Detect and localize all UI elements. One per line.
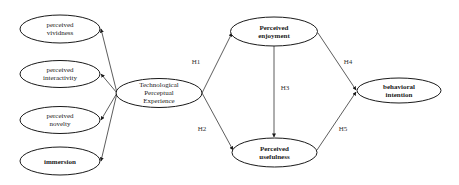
- node-immersion: immersion: [20, 147, 100, 175]
- node-label: perceived: [46, 66, 74, 74]
- node-label: Technological: [139, 81, 179, 89]
- node-label: interactivity: [43, 74, 77, 82]
- edge-label-h2: H2: [198, 125, 207, 133]
- edge-label-h1: H1: [192, 58, 201, 66]
- edge-tpe-novelty: [101, 93, 117, 120]
- edge-label-h5: H5: [339, 125, 348, 133]
- node-label: perceived: [46, 21, 74, 29]
- node-label: Experience: [143, 97, 174, 105]
- node-perceived-enjoyment: Perceived enjoyment: [231, 17, 318, 46]
- node-behavioral-intention: behavioral intention: [357, 78, 441, 103]
- edge-label-h4: H4: [344, 58, 353, 66]
- node-label: Perceptual: [144, 89, 174, 97]
- node-perceived-novelty: perceived novelty: [20, 107, 100, 134]
- node-label: enjoyment: [258, 32, 290, 40]
- node-label: vividness: [47, 29, 74, 37]
- node-perceived-vividness: perceived vividness: [20, 15, 100, 43]
- node-label: usefulness: [259, 153, 290, 161]
- node-label: novelty: [50, 120, 71, 128]
- edge-label-h3: H3: [281, 84, 290, 92]
- node-label: immersion: [44, 158, 76, 166]
- node-technological-perceptual-experience: Technological Perceptual Experience: [116, 79, 202, 108]
- node-label: Perceived: [259, 24, 288, 32]
- node-label: perceived: [46, 112, 74, 120]
- edge-h1: [202, 33, 232, 93]
- node-perceived-interactivity: perceived interactivity: [20, 61, 100, 88]
- node-perceived-usefulness: Perceived usefulness: [232, 138, 317, 167]
- edge-h2: [202, 93, 233, 150]
- structural-model-diagram: perceived vividness perceived interactiv…: [0, 0, 459, 185]
- node-label: intention: [386, 91, 413, 99]
- edge-tpe-immersion: [101, 93, 117, 161]
- node-label: behavioral: [383, 83, 415, 91]
- node-label: Perceived: [260, 145, 289, 153]
- edge-h5: [317, 92, 356, 150]
